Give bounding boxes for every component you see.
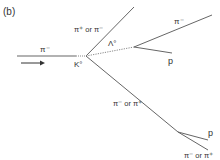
lower-pi-label: π⁻ or π⁺	[184, 151, 213, 160]
lambda-p-label: p	[168, 56, 173, 66]
lambda-label: Λ°	[108, 39, 117, 48]
lambda-pi-label: π⁻	[174, 17, 184, 26]
lower-track-label: π⁻ or π⁺	[113, 99, 142, 108]
panel-label: (b)	[3, 6, 15, 17]
lower-p-track	[178, 132, 208, 140]
diagram-svg: (b) π⁻ K° π⁺ or π⁻ Λ° π⁻ p π⁻ or π⁺ p π⁻…	[0, 0, 220, 160]
lower-p-label: p	[208, 128, 213, 138]
lambda-p-track	[134, 47, 172, 53]
beam-label: π⁻	[40, 45, 50, 54]
k0-label: K°	[74, 60, 83, 69]
lower-track	[86, 56, 178, 132]
lambda-pi-track	[134, 15, 212, 47]
particle-tracks-diagram: (b) π⁻ K° π⁺ or π⁻ Λ° π⁻ p π⁻ or π⁺ p π⁻…	[0, 0, 220, 160]
upper-track-label: π⁺ or π⁻	[74, 25, 103, 34]
arrow-right-icon	[40, 61, 45, 66]
lower-pi-track	[178, 132, 208, 150]
